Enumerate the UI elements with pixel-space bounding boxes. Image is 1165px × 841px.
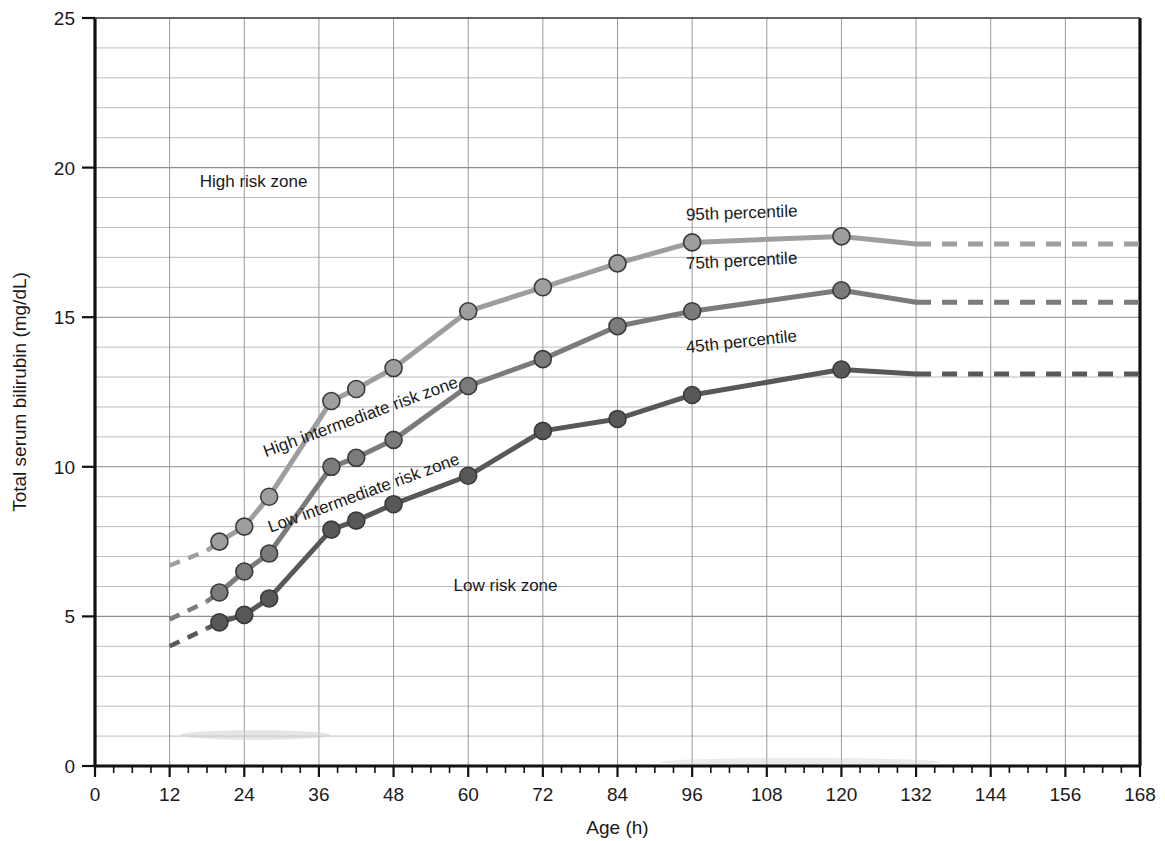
y-tick-label: 0	[64, 756, 75, 777]
x-tick-label: 12	[159, 784, 180, 805]
x-axis-tick-labels: 01224364860728496108120132144156168	[90, 784, 1156, 805]
x-tick-label: 36	[308, 784, 329, 805]
x-tick-label: 168	[1124, 784, 1156, 805]
data-point-marker	[236, 606, 253, 623]
annotation-high-risk-zone: High risk zone	[200, 172, 308, 191]
x-tick-label: 108	[751, 784, 783, 805]
data-point-marker	[460, 303, 477, 320]
x-tick-label: 84	[607, 784, 629, 805]
x-tick-label: 156	[1050, 784, 1082, 805]
data-point-marker	[348, 449, 365, 466]
data-point-marker	[385, 496, 402, 513]
x-tick-label: 132	[900, 784, 932, 805]
data-point-marker	[323, 458, 340, 475]
chart-canvas: 01224364860728496108120132144156168 0510…	[0, 0, 1165, 841]
y-tick-label: 25	[54, 8, 75, 29]
data-point-marker	[534, 422, 551, 439]
data-point-marker	[385, 431, 402, 448]
data-point-marker	[833, 282, 850, 299]
x-tick-label: 60	[458, 784, 479, 805]
x-tick-label: 72	[532, 784, 553, 805]
data-point-marker	[609, 410, 626, 427]
y-tick-label: 20	[54, 158, 75, 179]
x-tick-label: 120	[826, 784, 858, 805]
data-point-marker	[684, 386, 701, 403]
data-point-marker	[684, 234, 701, 251]
x-tick-label: 24	[234, 784, 256, 805]
data-point-marker	[609, 255, 626, 272]
data-point-marker	[211, 584, 228, 601]
data-point-marker	[534, 351, 551, 368]
y-axis-ticks	[82, 18, 95, 766]
bilirubin-nomogram-figure: 01224364860728496108120132144156168 0510…	[0, 0, 1165, 841]
data-point-marker	[460, 467, 477, 484]
data-point-marker	[211, 533, 228, 550]
y-tick-label: 10	[54, 457, 75, 478]
data-point-marker	[211, 614, 228, 631]
data-point-marker	[323, 392, 340, 409]
data-point-marker	[236, 518, 253, 535]
data-point-marker	[261, 590, 278, 607]
data-point-marker	[236, 563, 253, 580]
data-point-marker	[261, 545, 278, 562]
x-tick-label: 144	[975, 784, 1007, 805]
y-axis-tick-labels: 0510152025	[54, 8, 75, 777]
x-tick-label: 0	[90, 784, 101, 805]
y-tick-label: 5	[64, 606, 75, 627]
data-point-marker	[323, 521, 340, 538]
data-point-marker	[534, 279, 551, 296]
data-point-marker	[833, 361, 850, 378]
data-point-marker	[385, 360, 402, 377]
series-label-1: 95th percentile	[686, 202, 798, 225]
data-point-marker	[261, 488, 278, 505]
x-tick-label: 96	[682, 784, 703, 805]
data-point-marker	[609, 318, 626, 335]
x-axis-ticks	[95, 766, 1140, 777]
x-tick-label: 48	[383, 784, 404, 805]
y-tick-label: 15	[54, 307, 75, 328]
x-axis-title: Age (h)	[586, 817, 648, 838]
annotation-low-risk-zone: Low risk zone	[454, 576, 558, 595]
data-point-marker	[348, 381, 365, 398]
data-point-marker	[460, 378, 477, 395]
data-point-marker	[684, 303, 701, 320]
data-point-marker	[833, 228, 850, 245]
data-point-marker	[348, 512, 365, 529]
y-axis-title: Total serum bilirubin (mg/dL)	[9, 272, 30, 512]
